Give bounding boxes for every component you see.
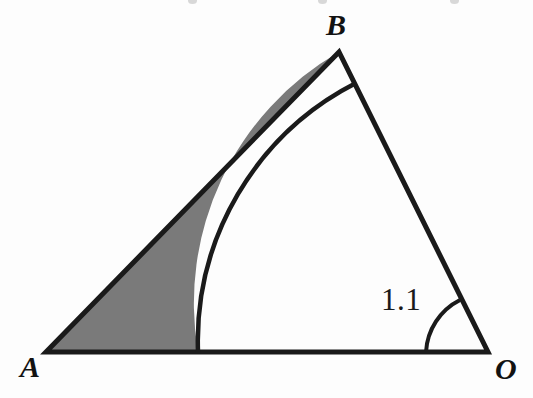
angle-value-label: 1.1: [381, 284, 421, 315]
angle-marker-arc: [426, 300, 460, 352]
vertex-label-a: A: [20, 352, 40, 382]
vertex-label-b: B: [326, 10, 346, 40]
geometry-figure: A B O 1.1: [0, 0, 533, 398]
geometry-canvas: [0, 0, 533, 398]
sector-arc: [198, 83, 356, 352]
vertex-label-o: O: [495, 354, 517, 384]
